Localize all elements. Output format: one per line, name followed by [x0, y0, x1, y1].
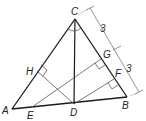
triangle-diagram: 3 3 C A B D E H G F: [0, 0, 146, 121]
angle-mark-acd: [68, 29, 75, 31]
dimension-label-gb: 3: [126, 63, 132, 74]
point-label-a: A: [1, 105, 9, 116]
point-label-h: H: [26, 66, 34, 77]
right-angle-mark-g: [95, 63, 105, 69]
point-label-b: B: [122, 100, 129, 111]
angle-mark-dcb: [75, 28, 81, 31]
extension-line-c: [78, 9, 88, 15]
point-label-d: D: [70, 107, 77, 118]
dimension-tick-g: [113, 46, 121, 50]
point-label-f: F: [115, 68, 122, 79]
side-ca: [12, 19, 75, 109]
point-label-g: G: [103, 49, 111, 60]
segment-cd: [74, 19, 75, 104]
right-angle-mark-f: [108, 83, 118, 89]
point-label-c: C: [71, 6, 79, 17]
point-label-e: E: [27, 110, 34, 121]
extension-line-b: [130, 93, 137, 96]
dimension-label-cg: 3: [100, 23, 106, 34]
segment-dh: [37, 71, 74, 104]
